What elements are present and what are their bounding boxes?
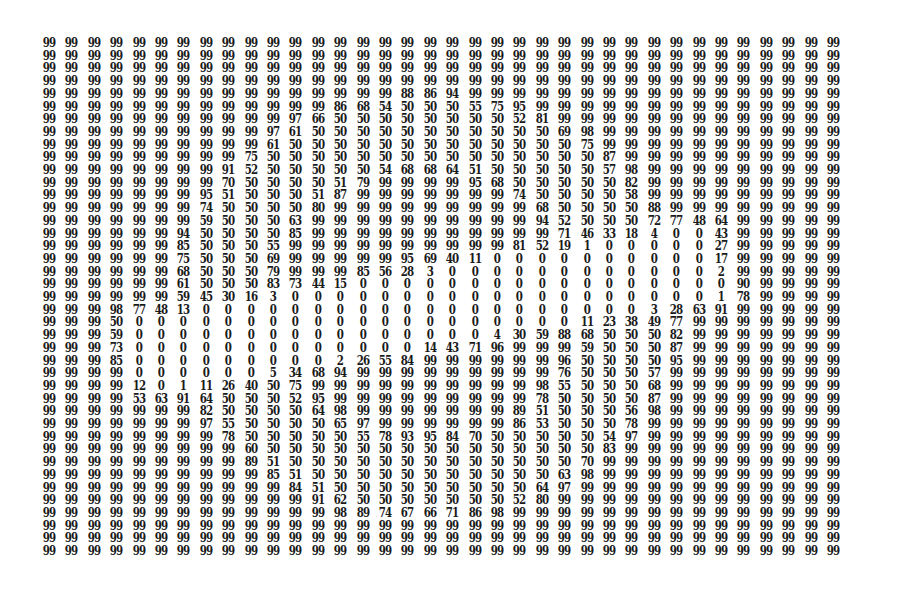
matrix-cell: 99 <box>824 544 842 558</box>
matrix-cell: 99 <box>667 544 685 558</box>
matrix-cell: 99 <box>645 544 663 558</box>
matrix-cell: 99 <box>622 544 640 558</box>
matrix-cell: 99 <box>40 544 58 558</box>
matrix-cell: 99 <box>331 544 349 558</box>
matrix-cell: 99 <box>734 544 752 558</box>
matrix-cell: 99 <box>376 544 394 558</box>
matrix-cell: 99 <box>712 544 730 558</box>
matrix-cell: 99 <box>309 544 327 558</box>
matrix-cell: 99 <box>488 544 506 558</box>
matrix-cell: 99 <box>152 544 170 558</box>
matrix-cell: 99 <box>443 544 461 558</box>
matrix-cell: 99 <box>510 544 528 558</box>
matrix-cell: 99 <box>264 544 282 558</box>
matrix-cell: 99 <box>242 544 260 558</box>
matrix-cell: 99 <box>600 544 618 558</box>
matrix-cell: 99 <box>555 544 573 558</box>
matrix-cell: 99 <box>779 544 797 558</box>
matrix-cell: 99 <box>757 544 775 558</box>
matrix-cell: 99 <box>578 544 596 558</box>
matrix-cell: 99 <box>466 544 484 558</box>
matrix-cell: 99 <box>354 544 372 558</box>
matrix-cell: 99 <box>197 544 215 558</box>
matrix-cell: 99 <box>533 544 551 558</box>
matrix-cell: 99 <box>802 544 820 558</box>
matrix-cell: 99 <box>690 544 708 558</box>
matrix-cell: 99 <box>85 544 103 558</box>
matrix-cell: 99 <box>421 544 439 558</box>
matrix-cell: 99 <box>219 544 237 558</box>
matrix-cell: 99 <box>62 544 80 558</box>
matrix-cell: 99 <box>286 544 304 558</box>
matrix-cell: 99 <box>398 544 416 558</box>
matrix-cell: 99 <box>174 544 192 558</box>
matrix-cell: 99 <box>130 544 148 558</box>
matrix-cell: 99 <box>107 544 125 558</box>
